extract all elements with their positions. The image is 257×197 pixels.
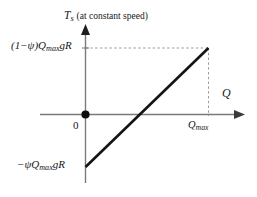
origin-dot: [81, 110, 89, 118]
y-axis-title-note: (at constant speed): [77, 11, 148, 21]
figure-container: Ts (at constant speed) (1−ψ)QmaxgR −ψQma…: [0, 0, 257, 197]
data-line-ts: [86, 48, 209, 167]
x-axis-tick-label-qmax: Qmax: [188, 120, 209, 131]
y-axis-bottom-value-label: −ψQmaxgR: [17, 159, 65, 170]
y-top-subscript: max: [46, 44, 60, 53]
x-axis-arrowhead: [234, 110, 245, 119]
y-bottom-tail: gR: [53, 158, 65, 170]
y-top-tail: gR: [60, 39, 72, 51]
y-bottom-subscript: max: [39, 163, 53, 172]
y-bottom-prefix: −ψQ: [17, 158, 39, 170]
y-axis-top-value-label: (1−ψ)QmaxgR: [11, 40, 72, 51]
x-axis-label: Q: [222, 87, 231, 99]
origin-label: 0: [73, 120, 79, 131]
y-axis-title-subscript: s: [70, 13, 73, 23]
y-top-prefix: (1−ψ)Q: [11, 39, 46, 51]
y-axis-arrowhead: [81, 24, 90, 35]
qmax-subscript: max: [196, 123, 209, 132]
qmax-symbol: Q: [188, 119, 196, 130]
y-axis-title: Ts (at constant speed): [64, 10, 148, 22]
